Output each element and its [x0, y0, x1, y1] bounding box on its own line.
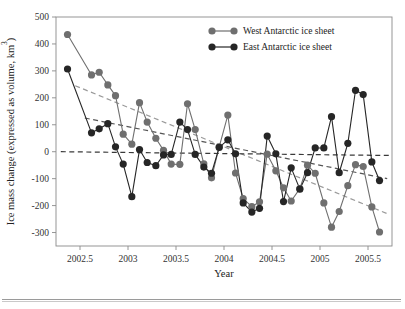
x-tick-label: 2003: [119, 254, 138, 264]
data-point: [360, 163, 367, 170]
data-point: [104, 81, 111, 88]
x-axis-title: Year: [214, 268, 234, 279]
data-point: [368, 158, 375, 165]
data-point: [144, 118, 151, 125]
y-tick-label: -300: [32, 228, 50, 238]
data-point: [208, 170, 215, 177]
data-point: [328, 113, 335, 120]
data-point: [264, 151, 271, 158]
data-point: [216, 144, 223, 151]
data-point: [240, 199, 247, 206]
data-point: [184, 126, 191, 133]
data-point: [368, 203, 375, 210]
data-point: [144, 159, 151, 166]
data-point: [256, 198, 263, 205]
x-tick-label: 2005: [311, 254, 330, 264]
y-tick-label: 400: [35, 39, 50, 49]
data-point: [88, 71, 95, 78]
data-point: [272, 167, 279, 174]
legend-marker: [208, 43, 215, 50]
data-point: [176, 118, 183, 125]
ice-mass-change-line-chart: 5004003002001000-100-200-300 2002.520032…: [0, 0, 405, 309]
data-point: [112, 92, 119, 99]
y-tick-label: 500: [35, 12, 50, 22]
data-point: [184, 100, 191, 107]
data-point: [352, 87, 359, 94]
legend-marker: [230, 43, 237, 50]
data-point: [120, 131, 127, 138]
data-point: [296, 186, 303, 193]
data-point: [224, 111, 231, 118]
y-axis-title-main: Ice mass change (expressed as volume, km: [5, 45, 17, 225]
data-point: [96, 69, 103, 76]
data-point: [288, 197, 295, 204]
data-point: [168, 151, 175, 158]
data-point: [152, 162, 159, 169]
data-point: [376, 177, 383, 184]
data-point: [112, 143, 119, 150]
data-point: [128, 193, 135, 200]
data-point: [64, 31, 71, 38]
y-axis-title-tail: ): [5, 37, 17, 41]
chart-figure: 5004003002001000-100-200-300 2002.520032…: [0, 0, 405, 309]
data-point: [96, 125, 103, 132]
data-point: [168, 161, 175, 168]
y-tick-label: 300: [35, 66, 50, 76]
x-tick-label: 2005.5: [355, 254, 381, 264]
data-point: [136, 99, 143, 106]
legend-label: West Antarctic ice sheet: [243, 26, 335, 36]
legend-label: East Antarctic ice sheet: [243, 42, 332, 52]
data-point: [288, 164, 295, 171]
x-tick-label: 2004: [215, 254, 234, 264]
data-point: [280, 184, 287, 191]
data-point: [224, 136, 231, 143]
data-point: [176, 161, 183, 168]
data-point: [232, 169, 239, 176]
data-point: [232, 150, 239, 157]
page-divider-rule: [2, 299, 401, 300]
data-point: [328, 224, 335, 231]
data-point: [136, 146, 143, 153]
data-point: [264, 132, 271, 139]
data-point: [200, 163, 207, 170]
data-point: [320, 144, 327, 151]
data-point: [128, 141, 135, 148]
legend-marker: [230, 27, 237, 34]
data-point: [352, 161, 359, 168]
data-point: [336, 208, 343, 215]
data-point: [312, 144, 319, 151]
y-tick-label: 100: [35, 120, 50, 130]
y-tick-label: 200: [35, 93, 50, 103]
data-point: [152, 135, 159, 142]
data-point: [304, 169, 311, 176]
data-point: [104, 120, 111, 127]
data-point: [304, 162, 311, 169]
data-point: [360, 91, 367, 98]
x-tick-label: 2004.5: [259, 254, 285, 264]
data-point: [88, 129, 95, 136]
data-point: [64, 65, 71, 72]
data-point: [280, 198, 287, 205]
x-tick-label: 2002.5: [67, 254, 93, 264]
y-tick-label: -200: [32, 201, 50, 211]
y-tick-label: -100: [32, 174, 50, 184]
data-point: [344, 140, 351, 147]
data-point: [256, 205, 263, 212]
data-point: [320, 199, 327, 206]
data-point: [160, 151, 167, 158]
data-point: [376, 228, 383, 235]
legend-marker: [208, 27, 215, 34]
data-point: [248, 208, 255, 215]
data-point: [192, 126, 199, 133]
data-point: [120, 161, 127, 168]
data-point: [312, 170, 319, 177]
data-point: [336, 169, 343, 176]
data-point: [272, 150, 279, 157]
page-divider-rule-secondary: [2, 301, 401, 302]
data-point: [192, 151, 199, 158]
x-tick-label: 2003.5: [163, 254, 189, 264]
data-point: [344, 182, 351, 189]
y-tick-label: 0: [44, 147, 49, 157]
